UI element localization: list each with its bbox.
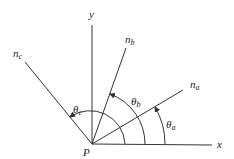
theta-c-label: θc [73, 103, 82, 117]
vector-na-label: na [190, 78, 200, 92]
angle-diagram: x y P na nb nc θa θb θc [0, 0, 234, 159]
theta-a-label: θa [166, 118, 175, 132]
vector-nb-label: nb [125, 33, 135, 47]
vector-nc [25, 62, 92, 144]
arc-theta-a [155, 107, 165, 144]
origin-label: P [82, 146, 90, 158]
y-axis-label: y [88, 8, 94, 20]
vector-nc-label: nc [13, 47, 23, 61]
theta-b-label: θb [131, 95, 140, 109]
x-axis-label: x [216, 138, 222, 150]
x-axis [92, 144, 212, 145]
